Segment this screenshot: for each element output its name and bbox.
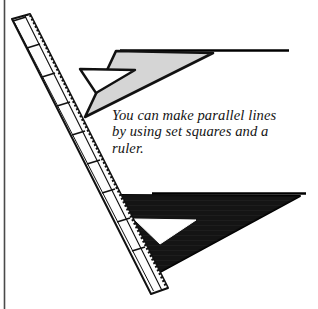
- figure-set-squares-parallel-lines: You can make parallel lines by using set…: [0, 0, 318, 309]
- figure-caption: You can make parallel lines by using set…: [112, 107, 288, 156]
